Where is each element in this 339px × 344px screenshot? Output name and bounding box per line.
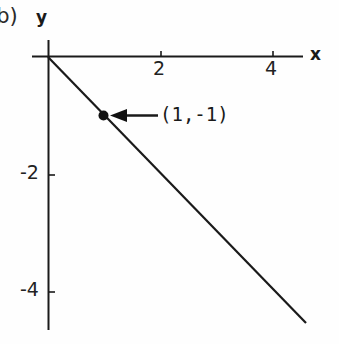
x-axis-label: x: [310, 46, 321, 63]
data-point-annotation-label: (1,-1): [160, 105, 229, 124]
annotation-arrow-head: [110, 109, 127, 122]
x-tick-label-2: 2: [153, 59, 165, 78]
plot-canvas: [0, 0, 339, 344]
y-tick-label-minus2: -2: [20, 163, 39, 182]
y-axis-label: y: [36, 9, 47, 26]
x-tick-label-4: 4: [265, 59, 277, 78]
data-point-marker: [99, 111, 109, 121]
graph-figure: (b) y x 2 4 -2 -4 (1,-1): [0, 0, 339, 344]
data-line-series: [48, 57, 306, 323]
y-tick-label-minus4: -4: [20, 280, 39, 299]
